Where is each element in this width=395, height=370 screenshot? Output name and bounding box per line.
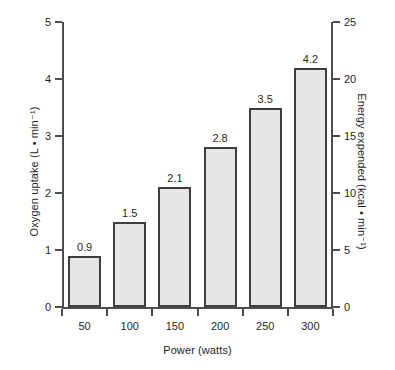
x-axis-tick-label: 150	[166, 320, 184, 332]
x-axis-tick	[106, 309, 108, 316]
y-axis-right-tick	[333, 306, 340, 308]
x-axis-tick-label: 250	[256, 320, 274, 332]
y-axis-right-tick-label: 0	[344, 301, 350, 313]
x-axis-tick-label: 300	[301, 320, 319, 332]
y-axis-right-tick	[333, 192, 340, 194]
y-axis-right-tick	[333, 21, 340, 23]
bar	[249, 108, 282, 308]
x-axis-tick-label: 50	[78, 320, 90, 332]
y-axis-left-tick-label: 2	[45, 187, 51, 199]
bar-value-label: 4.2	[303, 53, 318, 65]
x-axis-tick-label: 100	[121, 320, 139, 332]
x-axis-tick	[197, 309, 199, 316]
chart-figure: Oxygen uptake (L • min⁻¹) Energy expende…	[0, 0, 395, 370]
bar	[294, 68, 327, 307]
y-axis-left-tick-label: 1	[45, 244, 51, 256]
y-axis-left-tick	[55, 135, 62, 137]
y-axis-left-title: Oxygen uptake (L • min⁻¹)	[28, 72, 41, 272]
bar-value-label: 3.5	[258, 93, 273, 105]
y-axis-left-tick-label: 5	[45, 16, 51, 28]
x-axis-tick	[287, 309, 289, 316]
y-axis-right-tick-label: 20	[344, 73, 356, 85]
x-axis-tick	[61, 309, 63, 316]
bar	[204, 147, 237, 307]
x-axis-tick	[151, 309, 153, 316]
bar-value-label: 1.5	[122, 207, 137, 219]
y-axis-right-line	[331, 22, 333, 309]
x-axis-tick	[332, 309, 334, 316]
y-axis-right-tick-label: 10	[344, 187, 356, 199]
y-axis-left-tick	[55, 249, 62, 251]
y-axis-right-tick-label: 15	[344, 130, 356, 142]
bar	[113, 222, 146, 308]
y-axis-left-tick-label: 4	[45, 73, 51, 85]
x-axis-tick-label: 200	[211, 320, 229, 332]
plot-area: 012345 0510152025 50100150200250300 0.91…	[62, 22, 333, 309]
x-axis-tick	[242, 309, 244, 316]
x-axis-title: Power (watts)	[62, 344, 333, 356]
bar	[68, 256, 101, 307]
y-axis-left-tick	[55, 192, 62, 194]
y-axis-left-tick-label: 3	[45, 130, 51, 142]
y-axis-left-tick	[55, 21, 62, 23]
y-axis-left-tick	[55, 306, 62, 308]
y-axis-left-tick	[55, 78, 62, 80]
y-axis-left-line	[62, 22, 64, 309]
bar-value-label: 2.1	[167, 172, 182, 184]
y-axis-right-tick	[333, 78, 340, 80]
y-axis-right-tick	[333, 135, 340, 137]
y-axis-right-tick	[333, 249, 340, 251]
bar-value-label: 0.9	[77, 241, 92, 253]
y-axis-right-tick-label: 5	[344, 244, 350, 256]
y-axis-right-title: Energy expended (kcal • min⁻¹)	[355, 72, 368, 272]
bar-value-label: 2.8	[212, 132, 227, 144]
y-axis-left-tick-label: 0	[45, 301, 51, 313]
y-axis-right-tick-label: 25	[344, 16, 356, 28]
bar	[158, 187, 191, 307]
